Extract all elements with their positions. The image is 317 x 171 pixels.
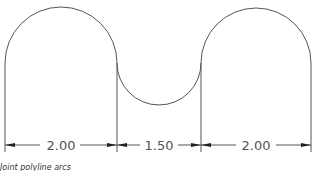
dimension-label-1: 2.00 [47,138,76,153]
dimension-3: 2.00 [201,138,311,153]
arrow-left-icon [201,143,211,147]
arrow-right-icon [301,143,311,147]
cad-drawing: 2.00 1.50 2.00 [0,0,317,171]
arrow-right-icon [191,143,201,147]
figure-caption: Joint polyline arcs [0,163,71,171]
arrow-left-icon [5,143,15,147]
arrow-left-icon [117,143,127,147]
profile-outline [5,7,311,105]
arrow-right-icon [107,143,117,147]
dimension-label-3: 2.00 [242,138,271,153]
dimension-label-2: 1.50 [145,138,174,153]
dimension-2: 1.50 [117,138,201,153]
dimension-1: 2.00 [5,138,117,153]
